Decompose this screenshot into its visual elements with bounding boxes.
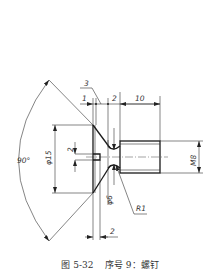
dim-slot-width: 2: [66, 147, 75, 152]
dim-neck-diameter: φ6: [105, 195, 114, 205]
dim-thread-group: M8: [189, 141, 199, 173]
dim-head-diameter: φ15: [44, 150, 53, 165]
dim-shank-length: 10: [135, 94, 145, 103]
dim-slot-depth: 2: [110, 227, 115, 236]
screw-drawing: 1 2 10 3 φ15 2 M8 φ6 R1 2: [0, 0, 220, 273]
dim-slot-depth-group: 2: [85, 227, 118, 237]
dim-head-face: 1: [82, 94, 87, 103]
dim-head-diameter-group: φ15: [44, 125, 55, 193]
screw-head: [93, 125, 110, 193]
dim-neck-radius: R1: [136, 204, 146, 213]
figure-caption: 图 5-32 序号 9：螺钉: [0, 258, 220, 271]
dim-thread: M8: [189, 155, 198, 166]
dim-head-angle: 90°: [17, 156, 31, 165]
dim-slot-width-group: 2: [66, 142, 75, 172]
dim-neck-width: 2: [112, 94, 117, 103]
dim-chamfer: 3: [84, 79, 89, 88]
